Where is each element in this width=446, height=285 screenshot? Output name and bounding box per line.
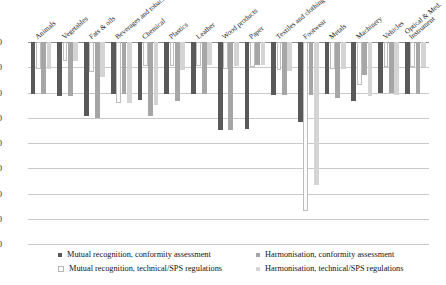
y-axis-tick-text: 0 [0,38,2,47]
bar [196,42,201,66]
bar [228,42,233,130]
bar-group [295,42,322,244]
bar [138,42,143,100]
bar [180,42,185,70]
legend-item-label: Harmonisation, conformity assessment [265,250,394,259]
bar [218,42,223,130]
legend-item-label: Mutual recognition, technical/SPS regula… [69,264,222,273]
bar-group [162,42,189,244]
y-axis-tick-text: -60 [0,190,2,199]
bar [271,42,276,95]
bar-group [402,42,429,244]
bar [202,42,207,94]
bar-group [135,42,162,244]
bar [255,42,260,65]
bar [36,42,41,69]
bar [122,42,127,94]
bar [95,42,100,118]
legend-item-label: Mutual recognition, conformity assessmen… [67,250,211,259]
y-axis-tick-text: -20 [0,89,2,98]
x-axis-category-label: Vegetables [61,15,89,41]
x-axis-category-label: Chemical [142,18,168,41]
bar [250,42,255,67]
legend-item-mutual-recognition-conformity-assessment: Mutual recognition, conformity assessmen… [58,250,211,259]
x-axis-category-label: Fats & oils [88,15,117,41]
bar [261,42,266,65]
legend-item-label: Harmonisation, technical/SPS regulations [265,264,404,273]
bar [421,42,426,67]
bar-group [349,42,376,244]
bar [351,42,356,101]
y-axis-tick-text: -70 [0,215,2,224]
bar [314,42,319,185]
bar [357,42,362,85]
bar-group [55,42,82,244]
bar-group [188,42,215,244]
x-axis-category-label: Footwear [302,18,327,41]
bar [245,42,250,129]
y-axis-tick-text: -80 [0,240,2,249]
bar [47,42,52,69]
bar [68,42,73,96]
bar [410,42,415,67]
chart-legend: Mutual recognition, conformity assessmen… [40,249,425,281]
bar [384,42,389,67]
bar-group [322,42,349,244]
bar [116,42,121,103]
legend-swatch-icon [58,266,64,272]
bar [170,42,175,66]
bar [394,42,399,95]
x-axis-category-label: Machinery [355,15,383,41]
legend-item-harmonisation-conformity-assessment: Harmonisation, conformity assessment [256,250,394,259]
bar-group [269,42,296,244]
bar-group [28,42,55,244]
x-axis-category-label: Metals [329,23,349,41]
y-axis-tick-text: -10 [0,63,2,72]
x-axis-category-label: Optical & Med.Instrument [404,1,446,41]
y-axis-tick-text: -50 [0,164,2,173]
bar-group [242,42,269,244]
bar [277,42,282,70]
gridline [28,244,429,245]
bar [389,42,394,93]
x-axis-category-label: Vehicles [382,20,405,41]
bar [191,42,196,94]
bar [309,42,314,95]
bar [362,42,367,75]
legend-item-mutual-recognition-technical-sps-regulations: Mutual recognition, technical/SPS regula… [58,264,222,273]
bar [335,42,340,98]
bar [57,42,62,96]
bar [41,42,46,94]
y-axis-tick-text: -30 [0,114,2,123]
bar-group [81,42,108,244]
plot-area [28,42,429,244]
bar [405,42,410,94]
legend-swatch-icon [256,267,260,271]
y-axis-tick-text: -40 [0,139,2,148]
bar [303,42,308,211]
legend-swatch-icon [256,253,260,257]
bar [154,42,159,105]
bar [378,42,383,93]
bar [143,42,148,66]
x-axis-category-label: Plastics [168,21,189,41]
x-axis-category-label: Paper [248,25,265,41]
bar [298,42,303,122]
bar [341,42,346,69]
bar [330,42,335,69]
bar [148,42,153,116]
bar [368,42,373,96]
bar [100,42,105,77]
bar [111,42,116,94]
bar [416,42,421,94]
bar [73,42,78,61]
bar [89,42,94,72]
bar [282,42,287,95]
bar [207,42,212,65]
bar-group [376,42,403,244]
legend-swatch-icon [58,253,62,257]
bar [223,42,228,69]
bar [234,42,239,66]
x-axis-category-label: Leather [195,21,216,41]
